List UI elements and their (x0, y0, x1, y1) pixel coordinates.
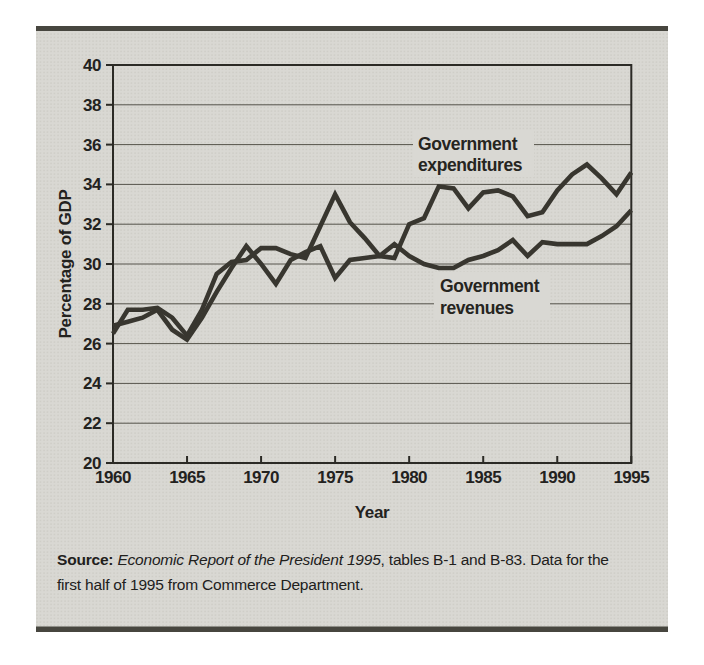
svg-text:1985: 1985 (465, 468, 501, 487)
source-line1: Source: Economic Report of the President… (57, 547, 657, 572)
svg-text:26: 26 (83, 335, 101, 354)
svg-text:1995: 1995 (613, 468, 649, 487)
source-note: Source: Economic Report of the President… (57, 547, 657, 597)
svg-text:28: 28 (83, 295, 101, 314)
svg-text:34: 34 (83, 175, 102, 194)
x-axis-title: Year (355, 503, 390, 522)
bottom-rule-bar (36, 627, 668, 633)
source-prefix: Source: (57, 551, 113, 568)
panel-halftone (36, 26, 668, 632)
source-line2: first half of 1995 from Commerce Departm… (57, 572, 657, 597)
source-rest: , tables B-1 and B-83. Data for the (381, 551, 609, 568)
source-title: Economic Report of the President 1995 (113, 551, 380, 568)
figure-panel: 2022242628303234363840 19601965197019751… (36, 26, 668, 632)
svg-text:24: 24 (83, 374, 102, 393)
svg-text:38: 38 (83, 96, 101, 115)
svg-text:1970: 1970 (243, 468, 279, 487)
expenditures-label-line2: expenditures (418, 155, 523, 175)
svg-text:1975: 1975 (317, 468, 353, 487)
svg-text:1980: 1980 (391, 468, 427, 487)
expenditures-label-line1: Government (418, 134, 518, 154)
svg-text:40: 40 (83, 56, 101, 75)
svg-text:1960: 1960 (95, 468, 131, 487)
svg-text:22: 22 (83, 414, 101, 433)
svg-text:32: 32 (83, 215, 101, 234)
svg-text:1965: 1965 (169, 468, 205, 487)
y-axis-title: Percentage of GDP (56, 190, 75, 339)
top-rule-bar (36, 26, 668, 31)
revenues-label-line1: Government (440, 276, 540, 296)
svg-text:30: 30 (83, 255, 101, 274)
page: 2022242628303234363840 19601965197019751… (0, 0, 704, 665)
svg-text:36: 36 (83, 136, 101, 155)
chart: 2022242628303234363840 19601965197019751… (36, 26, 668, 632)
revenues-label-line2: revenues (440, 298, 514, 318)
svg-text:1990: 1990 (539, 468, 575, 487)
